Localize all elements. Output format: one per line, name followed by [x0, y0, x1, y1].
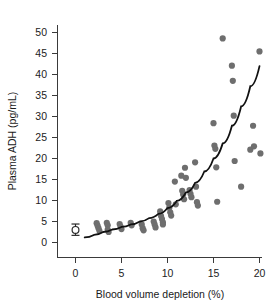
data-point — [210, 120, 216, 126]
data-point — [250, 123, 256, 129]
data-point — [213, 164, 219, 170]
y-axis-title: Plasma ADH (pg/mL) — [6, 92, 18, 191]
scatter-plot-svg: 50 45 40 35 30 25 20 15 10 5 0 0 5 10 15… — [0, 0, 272, 306]
y-axis-tick-labels: 50 45 40 35 30 25 20 15 10 5 0 — [35, 26, 47, 248]
y-tick-label-10: 10 — [35, 194, 47, 206]
y-tick-label-45: 45 — [35, 47, 47, 59]
data-point — [251, 143, 257, 149]
x-tick-label-15: 15 — [208, 267, 220, 279]
x-tick-label-20: 20 — [254, 267, 266, 279]
y-tick-label-5: 5 — [41, 215, 47, 227]
data-point — [183, 175, 189, 181]
data-points-layer — [94, 35, 264, 235]
data-point — [168, 213, 174, 219]
data-point — [212, 146, 218, 152]
data-point — [188, 194, 194, 200]
y-axis-ticks — [52, 33, 58, 243]
y-tick-label-15: 15 — [35, 173, 47, 185]
x-tick-label-5: 5 — [119, 267, 125, 279]
data-point — [230, 78, 236, 84]
y-tick-label-30: 30 — [35, 110, 47, 122]
y-tick-label-25: 25 — [35, 131, 47, 143]
y-tick-label-40: 40 — [35, 68, 47, 80]
x-axis-title: Blood volume depletion (%) — [96, 288, 224, 300]
data-point — [256, 48, 262, 54]
x-axis-tick-labels: 0 5 10 15 20 — [73, 267, 266, 279]
data-point — [140, 227, 146, 233]
axes-group — [58, 25, 263, 258]
x-axis-ticks — [76, 258, 260, 264]
data-point — [160, 221, 166, 227]
data-point — [257, 150, 263, 156]
y-tick-label-0: 0 — [41, 236, 47, 248]
data-point — [214, 199, 220, 205]
chart-figure: 50 45 40 35 30 25 20 15 10 5 0 0 5 10 15… — [0, 0, 272, 306]
y-tick-label-50: 50 — [35, 26, 47, 38]
data-point — [152, 224, 158, 230]
x-tick-label-0: 0 — [73, 267, 79, 279]
data-point — [232, 158, 238, 164]
control-marker-layer — [72, 224, 80, 235]
data-point — [238, 184, 244, 190]
data-point — [182, 165, 188, 171]
data-point — [195, 202, 201, 208]
y-tick-label-35: 35 — [35, 89, 47, 101]
data-point — [192, 159, 198, 165]
data-point — [231, 113, 237, 119]
data-point — [220, 35, 226, 41]
x-tick-label-10: 10 — [162, 267, 174, 279]
data-point — [172, 179, 178, 185]
y-tick-label-20: 20 — [35, 152, 47, 164]
data-point — [229, 63, 235, 69]
control-open-circle-marker — [72, 227, 79, 234]
